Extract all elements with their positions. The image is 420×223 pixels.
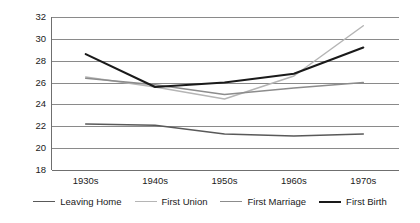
legend-item-first-birth[interactable]: First Birth (319, 196, 387, 207)
legend-item-leaving-home[interactable]: Leaving Home (33, 196, 121, 207)
x-axis-tick-label: 1970s (333, 175, 393, 186)
series-line-first-marriage (86, 78, 364, 94)
series-line-leaving-home (86, 124, 364, 136)
legend-line-swatch (33, 201, 55, 202)
legend-label: First Marriage (247, 196, 306, 207)
legend-line-swatch (135, 201, 157, 202)
legend-label: Leaving Home (60, 196, 121, 207)
series-lines (0, 0, 420, 223)
x-axis-tick-label: 1960s (264, 175, 324, 186)
series-line-first-birth (86, 48, 364, 87)
x-axis-tick-label: 1940s (125, 175, 185, 186)
x-axis-tick-label: 1950s (195, 175, 255, 186)
line-chart: 3230282624222018 1930s1940s1950s1960s197… (0, 0, 420, 223)
legend-item-first-union[interactable]: First Union (135, 196, 208, 207)
legend-label: First Union (162, 196, 208, 207)
legend-item-first-marriage[interactable]: First Marriage (220, 196, 306, 207)
legend-label: First Birth (346, 196, 387, 207)
chart-legend: Leaving HomeFirst UnionFirst MarriageFir… (0, 196, 420, 207)
legend-line-swatch (220, 201, 242, 202)
legend-line-swatch (319, 201, 341, 203)
x-axis-tick-label: 1930s (56, 175, 116, 186)
